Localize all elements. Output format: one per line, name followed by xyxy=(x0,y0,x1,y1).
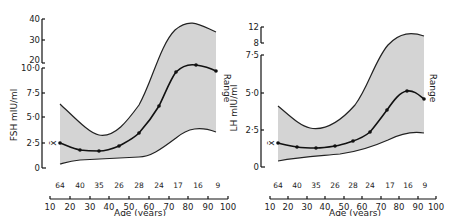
svg-text:28: 28 xyxy=(134,181,144,190)
svg-text:80: 80 xyxy=(183,202,194,212)
svg-text:16: 16 xyxy=(193,181,203,190)
svg-text:35: 35 xyxy=(311,181,321,190)
svg-text:100: 100 xyxy=(428,202,444,212)
svg-text:24: 24 xyxy=(154,181,164,190)
svg-text:17: 17 xyxy=(173,181,183,190)
svg-text:90: 90 xyxy=(413,202,424,212)
svg-text:35: 35 xyxy=(94,181,104,190)
lh-ytick-2-5: 2·5 xyxy=(245,125,259,135)
svg-text:100: 100 xyxy=(220,202,236,212)
svg-text:16: 16 xyxy=(403,181,413,190)
svg-text:80: 80 xyxy=(394,202,405,212)
fsh-y-label: FSH mIU/ml xyxy=(9,89,19,142)
fsh-ytick-30: 30 xyxy=(29,35,40,45)
figure: 40 30 20 10·0 7·5 5·0 2·5 0 FSH mIU/ml x… xyxy=(0,0,452,216)
svg-text:64: 64 xyxy=(273,181,283,190)
svg-text:30: 30 xyxy=(85,202,96,212)
lh-y-label: LH mIU/ml xyxy=(229,85,239,132)
fsh-ytick-40: 40 xyxy=(29,14,40,24)
fsh-x-label: Age (years) xyxy=(114,208,166,216)
fsh-chart: 40 30 20 10·0 7·5 5·0 2·5 0 FSH mIU/ml x… xyxy=(9,14,236,216)
svg-text:26: 26 xyxy=(114,181,124,190)
fsh-y-axis xyxy=(42,19,46,168)
svg-text:90: 90 xyxy=(203,202,214,212)
fsh-range-band xyxy=(60,23,216,164)
svg-text:9: 9 xyxy=(216,181,221,190)
svg-text:24: 24 xyxy=(365,181,375,190)
svg-text:40: 40 xyxy=(104,202,115,212)
fsh-ytick-5: 5·0 xyxy=(26,112,40,122)
svg-text:9: 9 xyxy=(423,181,428,190)
fsh-x-axis xyxy=(50,196,228,199)
lh-x-label: Age (years) xyxy=(329,208,381,216)
lh-ytick-8: 8 xyxy=(254,38,259,48)
fsh-mean-label: x̄ xyxy=(48,140,58,146)
svg-text:64: 64 xyxy=(55,181,65,190)
lh-sample-sizes: 64 40 35 26 28 24 17 16 9 xyxy=(273,181,427,190)
svg-text:40: 40 xyxy=(292,181,302,190)
lh-x-axis xyxy=(270,196,436,199)
svg-text:30: 30 xyxy=(302,202,313,212)
fsh-sample-sizes: 64 40 35 26 28 24 17 16 9 xyxy=(55,181,220,190)
lh-y-axis xyxy=(261,27,265,167)
svg-text:26: 26 xyxy=(330,181,340,190)
svg-text:20: 20 xyxy=(283,202,294,212)
svg-text:10: 10 xyxy=(45,202,56,212)
lh-chart: 12 8 7·5 5·0 2·5 0 LH mIU/ml x̄ Range 64… xyxy=(229,22,444,216)
fsh-ytick-2-5: 2·5 xyxy=(26,138,40,148)
lh-ytick-0: 0 xyxy=(254,162,259,172)
lh-ytick-12: 12 xyxy=(248,22,259,32)
svg-text:20: 20 xyxy=(65,202,76,212)
svg-text:10: 10 xyxy=(265,202,276,212)
lh-ytick-7-5: 7·5 xyxy=(245,50,259,60)
fsh-ytick-0: 0 xyxy=(35,163,40,173)
lh-ytick-5: 5·0 xyxy=(245,88,259,98)
lh-range-label: Range xyxy=(428,74,438,103)
lh-mean-label: x̄ xyxy=(266,140,276,146)
svg-text:40: 40 xyxy=(75,181,85,190)
svg-text:28: 28 xyxy=(348,181,358,190)
svg-text:17: 17 xyxy=(385,181,395,190)
fsh-ytick-7-5: 7·5 xyxy=(26,88,40,98)
fsh-ytick-10: 10·0 xyxy=(21,63,40,73)
